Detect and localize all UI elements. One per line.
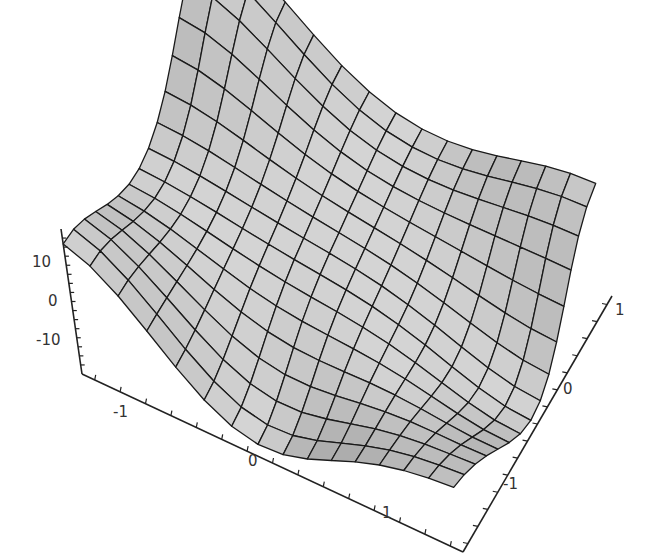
tick-mark	[349, 494, 350, 499]
surface-mesh	[63, 0, 596, 487]
tick-mark	[463, 542, 468, 543]
tick-mark	[533, 423, 538, 424]
tick-mark	[542, 406, 547, 407]
tick-mark	[562, 372, 567, 373]
z-tick-label: -10	[36, 331, 61, 349]
z-tick-label: 0	[48, 292, 58, 310]
tick-mark	[493, 491, 498, 492]
z-tick-label: 10	[32, 253, 51, 271]
tick-mark	[552, 389, 557, 390]
tick-mark	[592, 321, 597, 322]
tick-mark	[171, 411, 172, 416]
tick-mark	[222, 434, 223, 439]
tick-mark	[196, 422, 197, 427]
x-tick-label: -1	[113, 403, 128, 421]
tick-mark	[483, 508, 488, 509]
tick-mark	[298, 470, 299, 475]
tick-mark	[323, 482, 324, 487]
tick-mark	[120, 387, 121, 392]
tick-mark	[473, 525, 478, 526]
tick-mark	[513, 457, 518, 458]
y-tick-label: 1	[615, 301, 625, 319]
tick-mark	[95, 375, 96, 380]
tick-mark	[523, 440, 528, 441]
tick-mark	[425, 529, 426, 534]
tick-mark	[273, 458, 274, 463]
tick-mark	[374, 505, 375, 510]
x-tick-label: 0	[248, 452, 258, 470]
tick-mark	[572, 355, 577, 356]
tick-mark	[146, 399, 147, 404]
surface-plot: 10 0 -10 -1 0 1 -1 0 1	[0, 0, 657, 556]
tick-mark	[582, 338, 587, 339]
tick-mark	[247, 446, 248, 451]
y-tick-label: 0	[563, 380, 573, 398]
y-tick-label: -1	[503, 475, 518, 493]
tick-mark	[450, 541, 451, 546]
tick-mark	[602, 304, 607, 305]
tick-mark	[400, 517, 401, 522]
x-tick-label: 1	[382, 504, 392, 522]
